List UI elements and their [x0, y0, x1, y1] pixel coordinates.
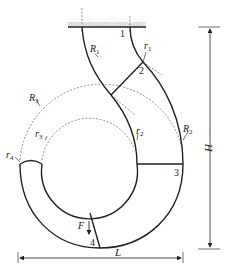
length-label: L [114, 246, 121, 258]
label-r4: r4 [6, 149, 14, 162]
label-R2: R2 [182, 123, 193, 136]
leader-lines [15, 52, 188, 162]
force-arrow: F [77, 220, 89, 234]
dimension-H: H [198, 27, 220, 249]
ceiling-support [68, 22, 146, 27]
label-r1: r1 [144, 40, 152, 53]
section-4-label: 4 [90, 237, 95, 248]
height-label: H [202, 143, 214, 153]
reference-arcs [20, 62, 183, 160]
label-R1: R1 [89, 43, 100, 56]
label-R3: R3 [28, 92, 39, 105]
force-label: F [77, 220, 85, 231]
section-2-label: 2 [139, 65, 144, 76]
label-r3: r3 [35, 128, 43, 141]
label-r2: r2 [136, 125, 144, 138]
section-3-label: 3 [174, 167, 179, 178]
crane-hook-diagram: R1 r1 R2 r2 R3 r3 r4 1 2 3 4 F H L [0, 0, 226, 269]
section-1-label: 1 [120, 28, 125, 39]
hook-outline [20, 27, 183, 248]
